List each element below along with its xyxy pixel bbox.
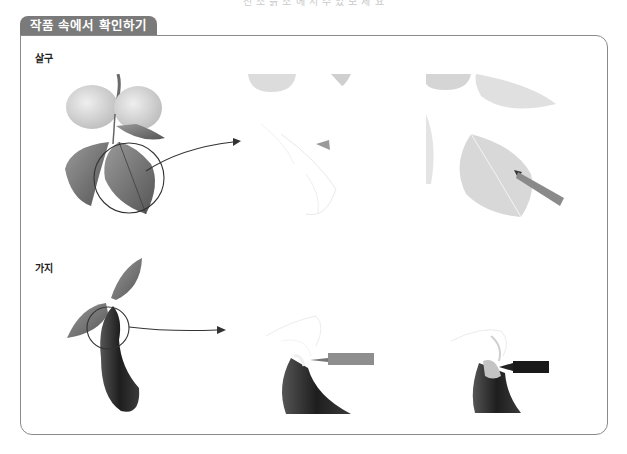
arrow-eggplant bbox=[129, 320, 229, 340]
apricot-leaf-coloring-stage bbox=[426, 74, 571, 219]
section-tab-title: 작품 속에서 확인하기 bbox=[20, 16, 157, 36]
content-box: 살구 bbox=[20, 35, 608, 435]
eggplant-calyx-coloring-stage bbox=[441, 301, 571, 416]
arrow-apricot bbox=[141, 116, 241, 176]
section-label-eggplant: 가지 bbox=[35, 260, 53, 275]
apricot-leaf-sketch-stage bbox=[236, 74, 376, 219]
section-label-apricot: 살구 bbox=[35, 50, 53, 65]
eggplant-calyx-sketch-stage bbox=[246, 296, 386, 416]
cropped-caption: 전 소 흙 소 에 서 수 있 보 세 요 bbox=[0, 0, 627, 8]
